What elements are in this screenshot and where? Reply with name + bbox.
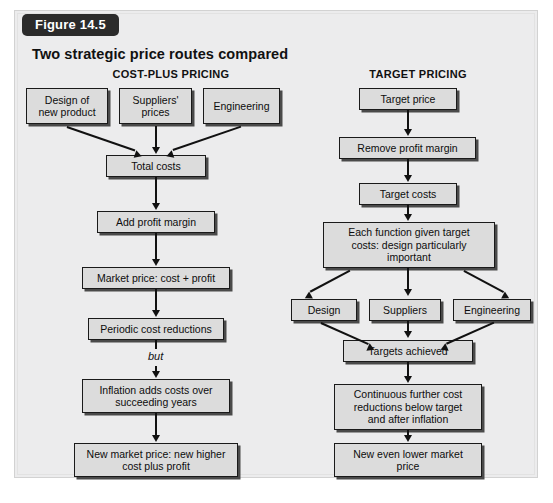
box-total-costs: Total costs <box>106 155 206 177</box>
box-inflation-adds-costs: Inflation adds costs oversucceeding year… <box>82 379 230 413</box>
connector-market-price-to-periodic <box>155 289 157 311</box>
figure-root: Figure 14.5 Two strategic price routes c… <box>0 0 553 503</box>
box-market-price-cost-plus-profit: Market price: cost + profit <box>82 267 230 289</box>
box-design-right: Design <box>291 299 357 321</box>
box-engineering-right: Engineering <box>453 299 531 321</box>
box-targets-achieved: Targets achieved <box>343 340 473 362</box>
box-label: Suppliers'prices <box>133 94 179 119</box>
arrowhead <box>404 376 412 383</box>
arrowhead <box>404 289 412 296</box>
column-heading-cost-plus: COST-PLUS PRICING <box>76 68 266 80</box>
box-target-costs: Target costs <box>359 183 457 205</box>
arrowhead <box>152 259 160 266</box>
arrowhead <box>152 147 160 154</box>
box-label: New market price: new highercost plus pr… <box>87 448 226 473</box>
box-suppliers-right: Suppliers <box>369 299 441 321</box>
box-label: Remove profit margin <box>357 142 457 155</box>
column-heading-target: TARGET PRICING <box>338 68 498 80</box>
connector-target-price-to-remove-margin <box>407 110 409 130</box>
box-label: Design ofnew product <box>38 94 95 119</box>
box-label: Total costs <box>131 160 181 173</box>
connector-each-function-to-suppliers <box>407 268 409 290</box>
box-label: Inflation adds costs oversucceeding year… <box>99 384 212 409</box>
box-suppliers-prices: Suppliers'prices <box>119 88 192 124</box>
connector-add-profit-to-market-price <box>155 233 157 260</box>
box-continuous-further-cost-reductions: Continuous further costreductions below … <box>334 384 482 430</box>
box-new-even-lower-market-price: New even lower marketprice <box>334 443 482 477</box>
arrowhead <box>404 435 412 442</box>
connector-targets-achieved-to-continuous <box>407 362 409 377</box>
arrowhead <box>152 435 160 442</box>
arrowhead <box>404 129 412 136</box>
arrowhead <box>404 175 412 182</box>
arrowhead <box>152 310 160 317</box>
arrowhead <box>404 331 412 338</box>
box-label: Targets achieved <box>368 345 447 358</box>
box-label: Periodic cost reductions <box>100 323 211 336</box>
box-label: Engineering <box>213 100 269 113</box>
box-label: Target costs <box>380 188 437 201</box>
box-each-function-given-target-costs: Each function given targetcosts: design … <box>323 222 495 268</box>
connector-note-but: but <box>148 350 163 362</box>
figure-title: Two strategic price routes compared <box>32 46 288 62</box>
box-new-market-price: New market price: new highercost plus pr… <box>74 443 238 477</box>
arrowhead <box>152 371 160 378</box>
figure-number-badge: Figure 14.5 <box>22 14 119 36</box>
arrowhead <box>152 203 160 210</box>
box-periodic-cost-reductions: Periodic cost reductions <box>88 318 224 340</box>
connector-remove-margin-to-target-costs <box>407 159 409 176</box>
connector-periodic-to-inflation <box>155 340 157 349</box>
box-label: Each function given targetcosts: design … <box>348 226 469 264</box>
box-label: Suppliers <box>383 304 427 317</box>
connector-inflation-to-new-market-price <box>155 413 157 436</box>
box-label: Market price: cost + profit <box>97 272 215 285</box>
connector-suppliers-to-total-costs <box>155 126 157 148</box>
box-label: Add profit margin <box>116 216 196 229</box>
box-add-profit-margin: Add profit margin <box>97 211 215 233</box>
box-remove-profit-margin: Remove profit margin <box>339 137 476 159</box>
box-label: Continuous further costreductions below … <box>354 388 463 426</box>
connector-total-costs-to-add-profit <box>155 177 157 204</box>
box-label: Design <box>308 304 341 317</box>
box-label: Engineering <box>464 304 520 317</box>
box-engineering-left: Engineering <box>203 88 280 124</box>
box-target-price: Target price <box>359 88 457 110</box>
box-label: New even lower marketprice <box>353 448 463 473</box>
box-label: Target price <box>381 93 436 106</box>
box-design-of-new-product: Design ofnew product <box>26 88 108 124</box>
arrowhead <box>404 214 412 221</box>
